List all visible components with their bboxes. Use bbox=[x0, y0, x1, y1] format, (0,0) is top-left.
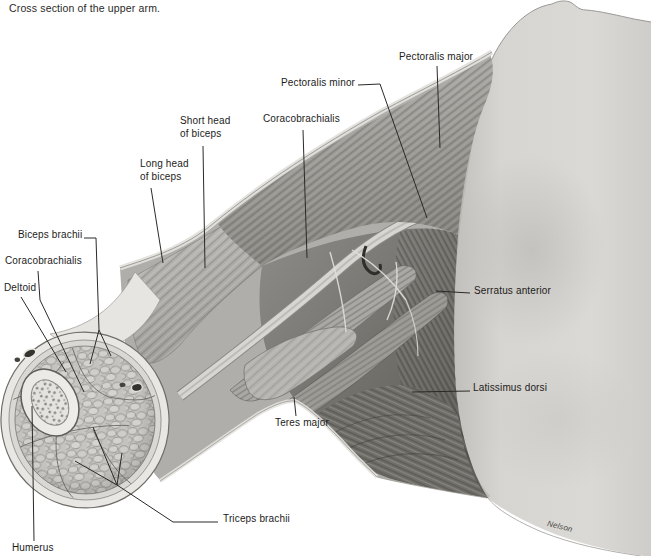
label-coracobrachialis-upper: Coracobrachialis bbox=[263, 112, 340, 125]
label-line: Short head bbox=[180, 114, 230, 127]
label-teres-major: Teres major bbox=[275, 416, 329, 429]
label-pectoralis-minor: Pectoralis minor bbox=[281, 76, 355, 89]
label-triceps-brachii: Triceps brachii bbox=[223, 512, 290, 525]
label-long-head-of-biceps: Long head of biceps bbox=[140, 157, 189, 183]
label-serratus-anterior: Serratus anterior bbox=[474, 284, 551, 297]
label-coracobrachialis-left: Coracobrachialis bbox=[5, 254, 82, 267]
label-biceps-brachii: Biceps brachii bbox=[18, 228, 82, 241]
label-deltoid: Deltoid bbox=[4, 281, 36, 294]
label-pectoralis-major: Pectoralis major bbox=[399, 50, 473, 63]
figure-caption: Cross section of the upper arm. bbox=[9, 2, 160, 15]
label-line: of biceps bbox=[180, 127, 230, 140]
label-latissimus-dorsi: Latissimus dorsi bbox=[473, 381, 547, 394]
label-short-head-of-biceps: Short head of biceps bbox=[180, 114, 230, 140]
anatomical-figure: Cross section of the upper arm. Pectoral… bbox=[0, 0, 651, 556]
label-humerus: Humerus bbox=[12, 541, 54, 554]
label-line: Long head bbox=[140, 157, 189, 170]
label-line: of biceps bbox=[140, 170, 189, 183]
leader-long-head bbox=[151, 188, 163, 263]
